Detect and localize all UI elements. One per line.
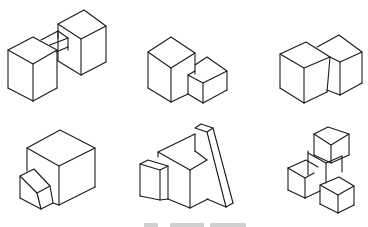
panel-2-cube-with-side-box xyxy=(148,37,227,103)
caption-fragment xyxy=(170,223,204,227)
figure-canvas xyxy=(0,0,368,227)
panel-1-two-cubes-with-connector xyxy=(8,10,106,101)
panel-3-two-adjacent-cubes xyxy=(280,35,362,103)
panel-4-cube-with-front-box xyxy=(20,130,95,209)
panel-6-stacked-cubes xyxy=(288,127,354,213)
figure-caption-clipped xyxy=(140,221,270,227)
panel-5-cube-box-and-leaning-bar xyxy=(140,124,233,208)
caption-fragment xyxy=(144,223,158,227)
caption-fragment xyxy=(210,223,246,227)
